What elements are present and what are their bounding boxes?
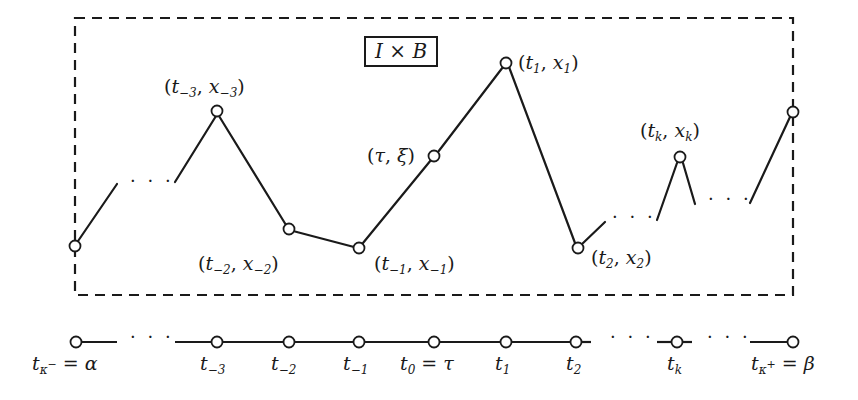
axis-label-t-1: t1 [495,354,510,376]
axis-label-beta: tκ+ = β [751,354,815,376]
node-t-k [675,152,686,163]
axis-label-alpha: tκ− = α [32,354,98,376]
point-label-t-minus-1: (t−1, x−1) [374,254,455,276]
node-end [788,107,799,118]
region-label-left: I [375,39,383,63]
axis-label-t-2: t2 [566,354,581,376]
axis-label-t-minus-2: t−2 [271,354,296,376]
region-label-op: × [389,39,406,63]
ellipsis-axis-3: · · · [707,326,751,347]
axis-label-t-minus-3: t−3 [200,354,225,376]
node-t-minus-3 [212,106,223,117]
axis-label-t-minus-1: t−1 [343,354,368,376]
node-t-2 [573,243,584,254]
axis-label-t-0-tau: t0 = τ [400,354,454,376]
node-t-minus-1 [354,243,365,254]
region-label-box: I × B [364,36,438,67]
node-tau-xi [429,151,440,162]
ellipsis-path-3: · · · [708,188,752,209]
point-label-t-1: (t1, x1) [518,53,579,75]
node-t-1 [501,58,512,69]
ellipsis-path-2: · · · [612,206,656,227]
axis-label-t-k: tk [667,354,682,376]
point-label-tau-xi: (τ, ξ) [367,146,415,165]
point-label-t-minus-3: (t−3, x−3) [164,77,245,99]
region-label-right: B [412,39,427,63]
ellipsis-path-1: · · · [130,170,174,191]
ellipsis-axis-1: · · · [130,326,174,347]
node-t-minus-2 [284,224,295,235]
point-label-t-2: (t2, x2) [591,248,652,270]
point-label-t-minus-2: (t−2, x−2) [198,254,279,276]
point-label-t-k: (tk, xk) [640,121,700,143]
node-start [70,241,81,252]
ellipsis-axis-2: · · · [610,326,654,347]
